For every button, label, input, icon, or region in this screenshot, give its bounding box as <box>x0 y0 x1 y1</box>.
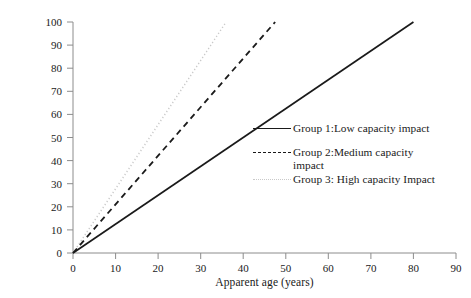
x-axis-tick-labels: 0 10 20 30 40 50 60 70 80 90 <box>70 262 462 274</box>
x-tick-label: 90 <box>451 262 463 274</box>
x-tick-label: 40 <box>238 262 250 274</box>
chart-figure: 100 90 80 70 60 50 40 30 20 10 0 0 10 20… <box>0 0 471 298</box>
x-tick-label: 30 <box>195 262 207 274</box>
legend-label-group-3: Group 3: High capacity Impact <box>293 173 435 186</box>
x-tick-label: 20 <box>153 262 165 274</box>
x-axis-ticks <box>73 253 456 259</box>
x-tick-label: 10 <box>110 262 122 274</box>
series-line-group-3 <box>73 22 226 253</box>
series-line-group-2 <box>73 22 275 253</box>
x-axis-title: Apparent age (years) <box>73 276 456 288</box>
y-tick-label: 70 <box>51 85 63 97</box>
y-axis-tick-labels: 100 90 80 70 60 50 40 30 20 10 0 <box>46 16 63 259</box>
x-tick-label: 50 <box>280 262 292 274</box>
legend-swatch-dotted-icon <box>253 173 291 186</box>
legend-swatch-dashed-icon <box>253 146 291 159</box>
x-tick-label: 70 <box>365 262 377 274</box>
chart-legend: Group 1:Low capacity impact Group 2:Medi… <box>253 122 469 186</box>
legend-item-group-3[interactable]: Group 3: High capacity Impact <box>253 173 469 186</box>
y-tick-label: 20 <box>51 201 63 213</box>
y-tick-label: 80 <box>51 62 63 74</box>
y-tick-label: 0 <box>57 247 63 259</box>
x-tick-label: 60 <box>323 262 335 274</box>
y-axis-ticks <box>67 22 73 253</box>
y-tick-label: 50 <box>51 132 63 144</box>
legend-swatch-solid-icon <box>253 122 291 135</box>
legend-item-group-1[interactable]: Group 1:Low capacity impact <box>253 122 469 135</box>
legend-label-group-2: Group 2:Medium capacity impact <box>293 146 413 172</box>
y-tick-label: 90 <box>51 39 63 51</box>
y-tick-label: 100 <box>46 16 63 28</box>
x-tick-label: 80 <box>408 262 420 274</box>
y-tick-label: 60 <box>51 108 63 120</box>
x-tick-label: 0 <box>70 262 76 274</box>
y-tick-label: 10 <box>51 224 63 236</box>
legend-label-group-1: Group 1:Low capacity impact <box>293 122 430 135</box>
y-tick-label: 30 <box>51 178 63 190</box>
legend-item-group-2[interactable]: Group 2:Medium capacity impact <box>253 146 469 172</box>
y-tick-label: 40 <box>51 155 63 167</box>
